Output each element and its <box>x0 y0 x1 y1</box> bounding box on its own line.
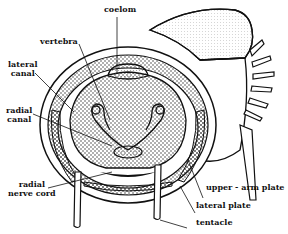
label-lateral-canal: lateral canal <box>8 60 37 78</box>
label-radial-canal: radial canal <box>6 106 32 124</box>
label-radial-canal-line2: canal <box>6 115 32 124</box>
label-tentacle: tentacle <box>196 218 232 227</box>
label-coelom: coelom <box>104 5 136 14</box>
label-lateral-canal-line2: canal <box>8 69 37 78</box>
radial-canal <box>114 146 142 158</box>
label-vertebra: vertebra <box>40 37 78 46</box>
label-lateral-plate: lateral plate <box>196 201 251 210</box>
coelom <box>108 64 148 79</box>
label-radial-nerve-cord-line2: nerve cord <box>8 189 56 198</box>
label-upper-arm-plate: upper - arm plate <box>206 183 284 192</box>
label-radial-nerve-cord: radial nerve cord <box>8 180 56 198</box>
